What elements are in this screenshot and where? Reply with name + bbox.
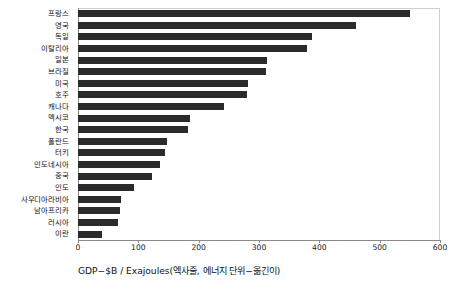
category-axis-labels: 프랑스영국독일이탈리아일본브라질미국호주캐나다멕시코한국폴란드터키인도네시아중국… (0, 8, 74, 240)
bar-row (78, 217, 440, 229)
bar-row (78, 31, 440, 43)
bar (78, 184, 134, 191)
category-label: 인도 (0, 182, 74, 194)
bar (78, 231, 102, 238)
bar (78, 138, 167, 145)
category-label: 미국 (0, 78, 74, 90)
category-label: 독일 (0, 31, 74, 43)
bar (78, 126, 188, 133)
bar (78, 196, 121, 203)
bar (78, 45, 307, 52)
bar-row (78, 54, 440, 66)
bar-row (78, 170, 440, 182)
bar (78, 57, 267, 64)
bar (78, 219, 118, 226)
bar (78, 161, 160, 168)
x-tick-label: 400 (312, 244, 327, 252)
category-label: 일본 (0, 54, 74, 66)
bar (78, 207, 120, 214)
gdp-per-exajoule-bar-chart: 프랑스영국독일이탈리아일본브라질미국호주캐나다멕시코한국폴란드터키인도네시아중국… (0, 0, 456, 289)
x-tick-label: 300 (252, 244, 267, 252)
category-label: 러시아 (0, 217, 74, 229)
bar-row (78, 89, 440, 101)
bar (78, 22, 356, 29)
category-label: 사우디아라비아 (0, 194, 74, 206)
category-label: 터키 (0, 147, 74, 159)
bar (78, 33, 312, 40)
bar-row (78, 228, 440, 240)
bar-row (78, 78, 440, 90)
category-label: 한국 (0, 124, 74, 136)
bar (78, 68, 266, 75)
category-label: 이탈리아 (0, 43, 74, 55)
category-label: 영국 (0, 20, 74, 32)
x-axis-title: GDP−$B / Exajoules(엑사줄, 에너지 단위−옮긴이) (78, 266, 280, 275)
x-tick-label: 0 (76, 244, 81, 252)
category-label: 폴란드 (0, 136, 74, 148)
bar-row (78, 205, 440, 217)
x-tick-label: 600 (433, 244, 448, 252)
x-tick-label: 100 (131, 244, 146, 252)
bar (78, 91, 247, 98)
bar-row (78, 136, 440, 148)
x-tick-label: 500 (372, 244, 387, 252)
bars-area (78, 8, 440, 240)
bar (78, 103, 224, 110)
x-tick-label: 200 (191, 244, 206, 252)
bar-row (78, 66, 440, 78)
x-axis-ticks: 0100200300400500600 (78, 240, 440, 256)
category-label: 브라질 (0, 66, 74, 78)
category-label: 남아프리카 (0, 205, 74, 217)
bar (78, 173, 152, 180)
bar (78, 115, 190, 122)
category-label: 호주 (0, 89, 74, 101)
category-label: 중국 (0, 170, 74, 182)
category-label: 이란 (0, 228, 74, 240)
bar-row (78, 8, 440, 20)
bar-row (78, 159, 440, 171)
bar-row (78, 43, 440, 55)
category-label: 멕시코 (0, 112, 74, 124)
category-label: 인도네시아 (0, 159, 74, 171)
bar-row (78, 124, 440, 136)
bar-row (78, 147, 440, 159)
category-label: 프랑스 (0, 8, 74, 20)
bar-row (78, 182, 440, 194)
category-label: 캐나다 (0, 101, 74, 113)
bar-row (78, 194, 440, 206)
bar (78, 80, 248, 87)
bar-row (78, 20, 440, 32)
bar (78, 10, 410, 17)
bar-row (78, 112, 440, 124)
bar-row (78, 101, 440, 113)
bar (78, 149, 165, 156)
